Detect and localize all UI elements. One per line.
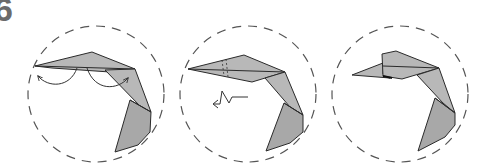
- pleat-arrow-left-icon: [214, 91, 248, 104]
- panel-1: [28, 26, 164, 162]
- curved-arrow-left-icon: [38, 68, 77, 84]
- zoom-circle: [180, 26, 316, 162]
- panel-3: [332, 26, 468, 162]
- origami-diagram: [0, 0, 495, 168]
- panel-2: [180, 26, 316, 162]
